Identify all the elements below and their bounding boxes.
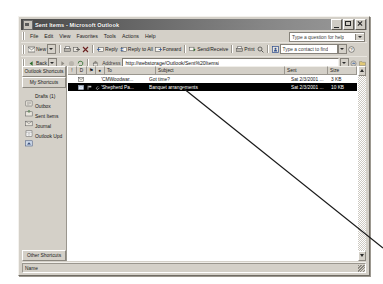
minimize-icon[interactable] bbox=[331, 19, 342, 30]
group-other-shortcuts-label: Other Shortcuts bbox=[27, 253, 61, 258]
sidebar-item-outlook-update-label: Outlook Upd bbox=[35, 134, 62, 139]
menu-item-tools[interactable]: Tools bbox=[101, 33, 119, 39]
menu-item-file[interactable]: File bbox=[27, 33, 41, 39]
send-receive-icon bbox=[189, 46, 196, 53]
find-contact-input[interactable]: Type a contact to find bbox=[280, 44, 338, 54]
move-to-folder-button[interactable] bbox=[72, 46, 81, 53]
chevron-down-icon[interactable] bbox=[355, 34, 364, 40]
toolbar-separator bbox=[59, 45, 61, 53]
outlook-window: Sent Items - Microsoft Outlook File Edit… bbox=[18, 16, 370, 276]
new-mail-icon bbox=[28, 46, 35, 53]
attachment-icon bbox=[93, 85, 101, 90]
row-sent: Sat 2/3/2001 ... bbox=[291, 77, 331, 82]
status-bar: Name bbox=[22, 262, 366, 273]
move-icon bbox=[73, 46, 80, 53]
title-bar: Sent Items - Microsoft Outlook bbox=[21, 19, 367, 30]
row-to: 'Shepherd Pa... bbox=[101, 85, 149, 90]
reply-all-button[interactable]: Reply to All bbox=[119, 46, 154, 53]
address-book-button[interactable] bbox=[271, 46, 280, 53]
close-icon[interactable] bbox=[355, 19, 366, 30]
standard-toolbar: New bbox=[21, 42, 367, 55]
forward-button[interactable]: Forward bbox=[154, 46, 182, 53]
find-icon bbox=[257, 46, 264, 53]
column-header-sent[interactable]: Sent bbox=[285, 66, 328, 75]
resize-grip-icon[interactable] bbox=[358, 265, 365, 272]
find-contact-value: Type a contact to find bbox=[281, 47, 329, 52]
flag-icon bbox=[85, 85, 93, 90]
sidebar-item-drafts-label: Drafts (1) bbox=[35, 94, 55, 99]
outlook-update-icon bbox=[25, 133, 33, 140]
table-row[interactable]: 'Shepherd Pa... Banquet arrangements Sat… bbox=[68, 83, 357, 91]
group-outlook-shortcuts-label: Outlook Shortcuts bbox=[25, 69, 64, 74]
sent-mail-icon bbox=[76, 77, 85, 82]
sidebar-item-journal[interactable]: Journal bbox=[22, 122, 66, 132]
menu-item-help[interactable]: Help bbox=[142, 33, 159, 39]
help-button[interactable]: ? bbox=[347, 46, 356, 53]
column-header-to[interactable]: To bbox=[105, 66, 156, 75]
print-icon bbox=[64, 46, 71, 53]
find-contact-dropdown-icon[interactable] bbox=[338, 44, 347, 54]
menu-grip-handle[interactable] bbox=[22, 32, 25, 40]
toolbar-separator bbox=[184, 45, 186, 53]
toolbar-separator bbox=[92, 45, 94, 53]
reply-button[interactable]: Reply bbox=[96, 46, 119, 53]
new-mail-button[interactable]: New bbox=[27, 44, 57, 54]
help-icon: ? bbox=[348, 46, 355, 53]
reply-icon bbox=[97, 46, 104, 53]
print-icon bbox=[236, 46, 243, 53]
sidebar-item-outbox-label: Outbox bbox=[35, 104, 51, 109]
row-sent: Sat 2/3/2001 ... bbox=[291, 85, 331, 90]
list-vertical-scrollbar[interactable] bbox=[357, 66, 366, 261]
message-rows: 'CMWoodwar... Got time? Sat 2/3/2001 ...… bbox=[68, 75, 357, 261]
journal-folder-icon bbox=[25, 123, 33, 130]
new-mail-label: New bbox=[36, 46, 46, 52]
scroll-down-button[interactable] bbox=[358, 251, 366, 261]
group-my-shortcuts-label: My Shortcuts bbox=[30, 80, 59, 85]
row-subject: Banquet arrangements bbox=[149, 85, 291, 90]
new-mail-dropdown-icon[interactable] bbox=[47, 44, 56, 54]
sent-mail-icon bbox=[76, 85, 85, 90]
sidebar-item-outlook-update[interactable]: Outlook Upd bbox=[22, 132, 66, 142]
column-header-size[interactable]: Size bbox=[328, 66, 357, 75]
sidebar-item-drafts[interactable]: Drafts (1) bbox=[22, 92, 66, 102]
print-label: Print bbox=[244, 46, 254, 52]
address-book-icon bbox=[272, 46, 279, 53]
menu-item-favorites[interactable]: Favorites bbox=[73, 33, 100, 39]
column-header-flag[interactable]: ⚑ bbox=[87, 66, 96, 75]
column-header-icon[interactable]: D bbox=[77, 66, 87, 75]
delete-button[interactable] bbox=[81, 46, 90, 53]
menu-item-actions[interactable]: Actions bbox=[119, 33, 142, 39]
row-size: 3 KB bbox=[331, 77, 357, 82]
find-button[interactable] bbox=[256, 46, 265, 53]
forward-icon bbox=[155, 46, 162, 53]
shortcut-list: Drafts (1) Outbox Sent Items bbox=[22, 88, 66, 250]
maximize-icon[interactable] bbox=[343, 19, 354, 30]
scroll-up-button[interactable] bbox=[358, 66, 366, 76]
menu-item-view[interactable]: View bbox=[56, 33, 73, 39]
column-header-attachment[interactable]: ● bbox=[96, 66, 105, 75]
reply-all-label: Reply to All bbox=[128, 46, 153, 52]
toolbar-grip-handle[interactable] bbox=[22, 45, 25, 54]
reply-all-icon bbox=[120, 46, 127, 53]
sidebar-item-journal-label: Journal bbox=[35, 124, 51, 129]
ask-a-question-input[interactable]: Type a question for help bbox=[289, 32, 365, 42]
group-outlook-shortcuts[interactable]: Outlook Shortcuts bbox=[22, 66, 66, 77]
print-preview-button[interactable]: Print bbox=[235, 46, 255, 53]
column-header-importance[interactable]: ! bbox=[68, 66, 77, 75]
delete-icon bbox=[82, 46, 89, 53]
table-row[interactable]: 'CMWoodwar... Got time? Sat 2/3/2001 ...… bbox=[68, 75, 357, 83]
row-to: 'CMWoodwar... bbox=[101, 77, 149, 82]
scrollbar-track[interactable] bbox=[358, 76, 366, 251]
group-other-shortcuts[interactable]: Other Shortcuts bbox=[22, 250, 66, 261]
send-receive-button[interactable]: Send/Receive bbox=[188, 46, 229, 53]
menu-item-edit[interactable]: Edit bbox=[41, 33, 56, 39]
group-my-shortcuts[interactable]: My Shortcuts bbox=[22, 77, 66, 88]
sidebar-item-outbox[interactable]: Outbox bbox=[22, 102, 66, 112]
menu-bar: File Edit View Favorites Tools Actions H… bbox=[21, 31, 367, 41]
row-size: 10 KB bbox=[331, 85, 357, 90]
print-button[interactable] bbox=[63, 46, 72, 53]
sidebar-item-sent-items[interactable]: Sent Items bbox=[22, 112, 66, 122]
column-header-subject[interactable]: Subject bbox=[156, 66, 285, 75]
message-list-pane: ! D ⚑ ● To Subject Sent Size bbox=[67, 66, 357, 261]
window-client-area: Sent Items - Microsoft Outlook File Edit… bbox=[20, 18, 368, 274]
